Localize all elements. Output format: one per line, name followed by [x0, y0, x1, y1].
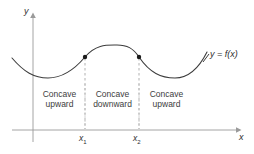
concavity-figure: y x y = f(x) Concave upward Concave down…	[0, 0, 254, 154]
figure-canvas	[0, 0, 254, 154]
tick-label-x2-sub: 2	[137, 139, 140, 145]
region-label-left-line1: Concave	[34, 89, 85, 99]
tick-label-x2: x2	[133, 133, 141, 146]
tick-label-x1-sub: 1	[83, 139, 86, 145]
region-label-middle: Concave downward	[86, 89, 139, 109]
region-label-middle-line1: Concave	[86, 89, 139, 99]
region-label-right-line1: Concave	[140, 89, 193, 99]
inflection-point-x1	[83, 55, 87, 59]
region-label-right: Concave upward	[140, 89, 193, 109]
function-label: y = f(x)	[210, 49, 238, 60]
region-label-right-line2: upward	[140, 99, 193, 109]
region-label-left-line2: upward	[34, 99, 85, 109]
region-label-middle-line2: downward	[86, 99, 139, 109]
x-axis-label: x	[239, 132, 244, 143]
inflection-point-x2	[137, 55, 141, 59]
y-axis-arrowhead	[30, 13, 36, 19]
tick-label-x1: x1	[79, 133, 87, 146]
y-axis-label: y	[24, 6, 29, 17]
region-label-left: Concave upward	[34, 89, 85, 109]
function-curve	[12, 45, 207, 78]
